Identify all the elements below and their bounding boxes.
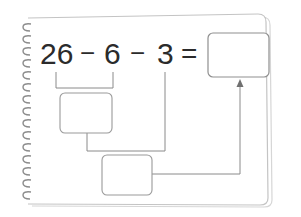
minus-sign-1: − [80, 38, 95, 68]
answer-box[interactable] [208, 33, 269, 77]
equals-sign: = [181, 38, 197, 69]
term-26: 26 [40, 37, 73, 70]
step-2-box[interactable] [102, 155, 152, 195]
notebook-worksheet: 26 − 6 − 3 = [0, 0, 301, 217]
term-3: 3 [157, 37, 174, 70]
term-6: 6 [104, 37, 121, 70]
minus-sign-2: − [130, 38, 145, 68]
worksheet-canvas: 26 − 6 − 3 = [0, 0, 301, 217]
step-1-box[interactable] [60, 93, 112, 133]
